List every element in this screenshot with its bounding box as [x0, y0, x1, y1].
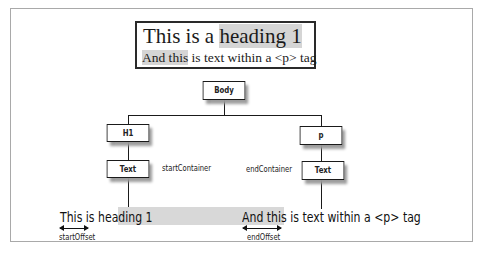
bottom-heading-selected: heading 1: [98, 209, 153, 225]
connector-p-text: [321, 145, 322, 161]
node-text-right: Text: [302, 161, 345, 180]
node-p: p: [300, 126, 343, 145]
start-container-label: startContainer: [162, 163, 211, 173]
bottom-heading-prefix: This is: [60, 209, 98, 225]
connector-h1-text: [128, 142, 129, 160]
bottom-heading-text: This is heading 1: [60, 208, 153, 226]
node-text-right-label: Text: [315, 162, 331, 178]
node-h1-label: H1: [123, 125, 134, 141]
connector-body-down: [224, 100, 225, 115]
bottom-paragraph-text: And this is text within a <p> tag: [242, 208, 421, 226]
sample-heading-selected: heading 1: [219, 24, 301, 48]
sample-heading: This is a heading 1: [143, 24, 302, 48]
connector-to-p: [321, 115, 322, 126]
node-text-left: Text: [107, 160, 150, 178]
bottom-paragraph-selected: And this: [242, 209, 287, 225]
end-offset-label: endOffset: [247, 232, 280, 242]
start-offset-arrow-icon: [60, 228, 88, 229]
connector-text-left-down: [128, 178, 129, 209]
node-body: Body: [203, 81, 246, 100]
sample-paragraph: And this is text within a <p> tag: [142, 49, 317, 66]
connector-text-right-down: [321, 180, 322, 209]
rendered-sample-box: This is a heading 1 And this is text wit…: [135, 21, 316, 69]
node-h1: H1: [107, 124, 150, 142]
sample-paragraph-selected: And this: [142, 50, 188, 65]
node-p-label: p: [319, 127, 324, 143]
node-body-label: Body: [214, 82, 234, 98]
start-offset-label: startOffset: [59, 232, 95, 242]
node-text-left-label: Text: [120, 161, 136, 177]
sample-heading-prefix: This is a: [143, 24, 219, 48]
end-offset-arrow-icon: [243, 228, 281, 229]
sample-paragraph-rest: is text within a <p> tag: [188, 50, 316, 65]
connector-horizontal: [128, 115, 322, 116]
end-container-label: endContainer: [246, 164, 292, 174]
connector-to-h1: [128, 115, 129, 124]
bottom-paragraph-rest: is text within a <p> tag: [287, 209, 421, 225]
